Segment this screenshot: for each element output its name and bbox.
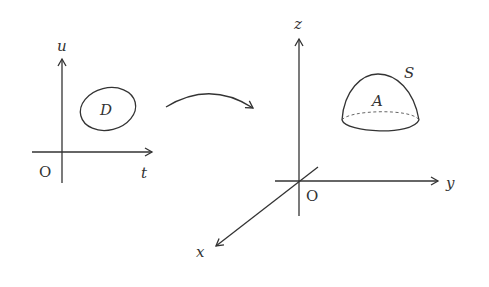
- region-d-label: D: [99, 101, 112, 119]
- origin-label-left: O: [39, 163, 51, 181]
- t-axis-label: t: [141, 164, 148, 182]
- x-axis: [216, 167, 318, 246]
- dome-base-back: [342, 112, 419, 120]
- origin-label-right: O: [306, 187, 318, 205]
- tu-plane: u t O D: [32, 37, 152, 183]
- xyz-space: z y x O S A: [196, 15, 455, 261]
- u-axis-label: u: [57, 37, 67, 55]
- mapping-arrow: [166, 94, 253, 108]
- dome-base-front: [342, 120, 419, 131]
- z-axis-label: z: [293, 15, 302, 33]
- x-axis-label: x: [196, 243, 205, 261]
- region-a-label: A: [370, 92, 383, 110]
- y-axis-label: y: [445, 174, 455, 192]
- surface-s-label: S: [404, 64, 414, 82]
- diagram-canvas: u t O D z y x O S A: [0, 0, 489, 287]
